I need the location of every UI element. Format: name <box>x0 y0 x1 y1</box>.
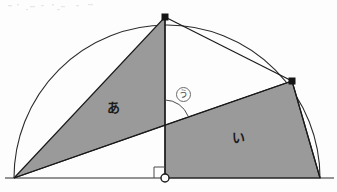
region-a-label: あ <box>107 101 120 114</box>
angle-u-label-text: う <box>176 87 191 102</box>
base-center-open-circle-icon <box>161 174 169 182</box>
figure-canvas: あ い う <box>0 0 337 192</box>
arc-right-vertex-marker-icon <box>289 78 296 85</box>
angle-u-label-badge: う <box>176 87 193 104</box>
region-b-label: い <box>232 131 245 144</box>
geometry-figure <box>0 0 337 192</box>
apex-vertex-marker-icon <box>162 14 169 21</box>
apex-to-arc-right-line <box>165 17 292 81</box>
